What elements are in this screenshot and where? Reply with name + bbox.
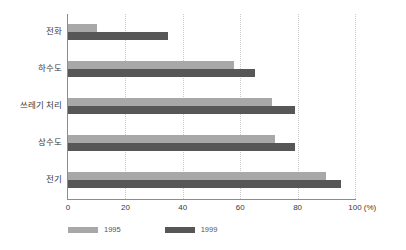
x-axis-line xyxy=(67,199,356,200)
bar-1999-상수도 xyxy=(68,143,295,151)
plot-area: 전화하수도쓰레기 처리상수도전기 xyxy=(68,14,355,199)
bar-1995-전기 xyxy=(68,172,326,180)
legend-label: 1999 xyxy=(201,225,218,234)
bar-1999-쓰레기 처리 xyxy=(68,106,295,114)
legend-item-1999[interactable]: 1999 xyxy=(165,225,218,234)
gridline xyxy=(355,14,356,199)
category-label: 쓰레기 처리 xyxy=(2,100,62,110)
x-tick-label: 40 xyxy=(178,203,187,212)
legend-swatch-icon xyxy=(68,227,98,233)
bar-1999-전기 xyxy=(68,180,341,188)
x-tick-label: 80 xyxy=(293,203,302,212)
x-tick-label: 0 xyxy=(66,203,70,212)
bar-1999-전화 xyxy=(68,32,168,40)
bar-group: 전화 xyxy=(68,14,355,51)
bar-group: 상수도 xyxy=(68,125,355,162)
category-label: 상수도 xyxy=(2,137,62,147)
bar-1995-하수도 xyxy=(68,61,234,69)
chart-legend: 19951999 xyxy=(68,225,217,234)
x-tick-label: 100 xyxy=(348,203,361,212)
legend-swatch-icon xyxy=(165,227,195,233)
bar-1995-전화 xyxy=(68,24,97,32)
category-label: 전화 xyxy=(2,26,62,36)
x-axis-unit-label: (%) xyxy=(364,203,376,212)
bar-group: 쓰레기 처리 xyxy=(68,88,355,125)
bar-1995-상수도 xyxy=(68,135,275,143)
bar-1999-하수도 xyxy=(68,69,255,77)
x-tick-label: 60 xyxy=(236,203,245,212)
bar-1995-쓰레기 처리 xyxy=(68,98,272,106)
legend-item-1995[interactable]: 1995 xyxy=(68,225,121,234)
bar-group: 하수도 xyxy=(68,51,355,88)
bar-group: 전기 xyxy=(68,162,355,199)
x-tick-label: 20 xyxy=(121,203,130,212)
category-label: 전기 xyxy=(2,174,62,184)
legend-label: 1995 xyxy=(104,225,121,234)
bar-chart: 전화하수도쓰레기 처리상수도전기 020406080100 (%) 199519… xyxy=(0,0,406,250)
category-label: 하수도 xyxy=(2,63,62,73)
